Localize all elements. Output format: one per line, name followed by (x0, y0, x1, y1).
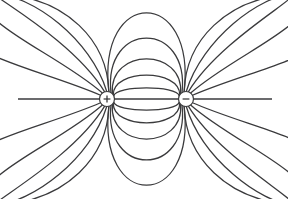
inner-arc-up-1 (114, 88, 179, 96)
outer-line-lower-right-1 (192, 103, 288, 170)
outer-line-lower-right-5 (184, 106, 288, 199)
outer-line-upper-left-3 (0, 0, 105, 92)
inner-arc-up-4 (110, 38, 182, 92)
inner-arc-down-2 (113, 103, 179, 123)
outer-line-lower-left-2 (0, 105, 102, 199)
outer-line-upper-left-1 (0, 28, 101, 95)
dipole-field-canvas: +− (0, 0, 288, 199)
outer-line-lower-left-1 (0, 103, 101, 170)
inner-arc-up-2 (113, 75, 179, 95)
outer-line-upper-right-5 (184, 0, 288, 92)
outer-line-upper-right-1 (192, 28, 288, 95)
outer-line-lower-right-4 (186, 106, 288, 199)
inner-arc-down-4 (110, 105, 182, 159)
inner-arc-down-1 (114, 102, 179, 110)
dipole-field-diagram: +− (0, 0, 288, 199)
negative-charge: − (179, 92, 194, 107)
outer-line-upper-right-2 (191, 0, 288, 93)
outer-line-upper-left-2 (0, 0, 102, 93)
positive-charge: + (100, 92, 115, 107)
outer-line-upper-right-4 (186, 0, 288, 92)
outer-line-lower-right-2 (191, 105, 288, 199)
